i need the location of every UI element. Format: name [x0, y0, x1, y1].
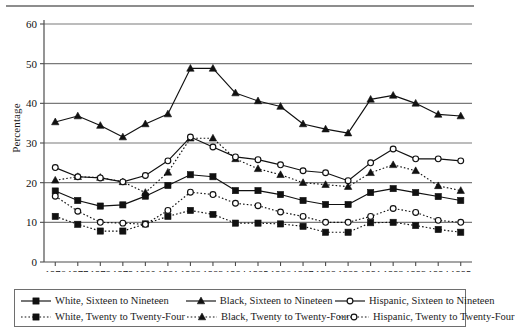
data-point — [322, 229, 328, 235]
data-point — [75, 174, 81, 180]
legend-swatch-icon — [185, 310, 219, 324]
legend-item[interactable]: Black, Sixteen to Nineteen — [184, 293, 333, 309]
legend-row: White, Twenty to Twenty-Four Black, Twen… — [19, 309, 461, 325]
legend-item-label: Hispanic, Sixteen to Nineteen — [367, 296, 494, 307]
data-point — [390, 219, 396, 225]
chart-canvas: 0102030405060197619771978197919801981198… — [0, 14, 480, 272]
x-tick-label: 1994 — [428, 269, 450, 272]
legend-item[interactable]: White, Sixteen to Nineteen — [19, 293, 184, 309]
data-point — [413, 210, 419, 216]
y-tick-label: 40 — [26, 97, 38, 109]
data-point — [210, 144, 216, 150]
legend-item[interactable]: Hispanic, Sixteen to Nineteen — [333, 293, 461, 309]
data-point — [142, 173, 148, 179]
data-point — [390, 206, 396, 212]
data-point — [300, 223, 306, 229]
data-point — [300, 168, 306, 174]
data-point — [97, 228, 103, 234]
data-point — [97, 219, 103, 225]
data-point — [345, 219, 351, 225]
data-point — [413, 189, 419, 195]
x-tick-label: 1985 — [248, 269, 269, 272]
data-point — [119, 133, 126, 140]
data-point — [278, 162, 284, 168]
legend-row: White, Sixteen to Nineteen Black, Sixtee… — [19, 293, 461, 309]
data-point — [435, 226, 441, 232]
legend-swatch-icon — [333, 294, 367, 308]
y-tick-label: 20 — [26, 177, 38, 189]
y-tick-label: 60 — [26, 18, 38, 30]
legend-item-label: Black, Twenty to Twenty-Four — [219, 312, 350, 323]
data-point — [165, 208, 171, 214]
data-point — [368, 220, 374, 226]
data-point — [390, 146, 396, 152]
series-1 — [52, 207, 464, 235]
data-point — [33, 298, 39, 304]
data-point — [413, 222, 419, 228]
data-point — [435, 111, 442, 118]
x-tick-label: 1978 — [90, 269, 111, 272]
data-point — [164, 110, 171, 117]
data-point — [300, 197, 306, 203]
legend-item-label: White, Sixteen to Nineteen — [53, 296, 169, 307]
data-point — [412, 167, 419, 174]
y-tick-label: 50 — [26, 58, 38, 70]
legend-item[interactable]: Black, Twenty to Twenty-Four — [185, 309, 337, 325]
data-point — [97, 203, 103, 209]
data-point — [142, 221, 148, 227]
data-point — [232, 188, 238, 194]
data-point — [435, 156, 441, 162]
y-tick-label: 10 — [26, 216, 38, 228]
data-point — [52, 165, 58, 171]
data-point — [458, 158, 464, 164]
chart-legend: White, Sixteen to Nineteen Black, Sixtee… — [14, 289, 466, 327]
data-point — [299, 120, 306, 127]
data-point — [255, 157, 261, 163]
legend-swatch-icon — [184, 294, 218, 308]
data-point — [368, 189, 374, 195]
data-point — [368, 160, 374, 166]
data-point — [187, 207, 193, 213]
data-point — [368, 213, 374, 219]
data-point — [97, 175, 103, 181]
x-tick-label: 1982 — [180, 269, 201, 272]
data-point — [188, 189, 194, 195]
data-point — [75, 197, 81, 203]
data-point — [347, 298, 353, 304]
data-point — [277, 191, 283, 197]
data-point — [389, 161, 396, 168]
series-4 — [52, 134, 463, 185]
legend-item-label: Black, Sixteen to Nineteen — [218, 296, 333, 307]
data-point — [120, 220, 126, 226]
data-point — [278, 209, 284, 215]
series-2 — [52, 65, 465, 140]
data-point — [458, 197, 464, 203]
data-point — [435, 217, 441, 223]
legend-item[interactable]: Hispanic, Twenty to Twenty-Four — [337, 309, 465, 325]
data-point — [345, 178, 351, 184]
data-point — [323, 170, 329, 176]
data-point — [255, 220, 261, 226]
plot-area: Percentage 01020304050601976197719781979… — [0, 14, 480, 272]
data-point — [165, 182, 171, 188]
data-point — [75, 221, 81, 227]
legend-item[interactable]: White, Twenty to Twenty-Four — [19, 309, 185, 325]
x-tick-label: 1983 — [202, 269, 223, 272]
data-point — [458, 229, 464, 235]
data-point — [413, 156, 419, 162]
data-point — [210, 174, 216, 180]
x-tick-label: 1981 — [157, 269, 178, 272]
data-point — [255, 188, 261, 194]
data-point — [300, 213, 306, 219]
data-point — [232, 220, 238, 226]
data-point — [52, 193, 58, 199]
x-tick-label: 1992 — [383, 269, 404, 272]
x-tick-label: 1991 — [360, 269, 381, 272]
x-tick-label: 1979 — [112, 269, 133, 272]
data-point — [277, 221, 283, 227]
data-point — [345, 201, 351, 207]
y-axis-label: Percentage — [10, 68, 22, 188]
data-point — [351, 314, 357, 320]
legend-swatch-icon — [19, 294, 53, 308]
legend-swatch-icon — [19, 310, 53, 324]
